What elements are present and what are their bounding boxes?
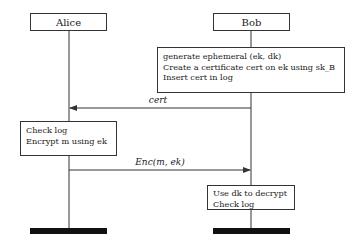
note-alice-action: Check log Encrypt m using ek bbox=[20, 121, 117, 156]
actor-bob-label: Bob bbox=[242, 17, 262, 28]
note-line: Encrypt m using ek bbox=[26, 136, 111, 147]
alice-terminator bbox=[30, 228, 107, 234]
note-line: Create a certificate cert on ek using sk… bbox=[163, 62, 339, 73]
note-line: Check log bbox=[26, 125, 111, 136]
actor-bob: Bob bbox=[213, 13, 290, 31]
note-bob-finish: Use dk to decrypt Check log bbox=[207, 185, 295, 210]
message-label-enc: Enc(m, ek) bbox=[135, 157, 184, 167]
note-line: Check log bbox=[213, 199, 289, 210]
note-bob-setup: generate ephemeral (ek, dk) Create a cer… bbox=[157, 47, 345, 93]
message-label-cert: cert bbox=[149, 95, 167, 105]
note-line: generate ephemeral (ek, dk) bbox=[163, 51, 339, 62]
note-line: Insert cert in log bbox=[163, 72, 339, 83]
note-line: Use dk to decrypt bbox=[213, 188, 289, 199]
bob-terminator bbox=[213, 228, 290, 234]
actor-alice-label: Alice bbox=[56, 17, 81, 28]
actor-alice: Alice bbox=[30, 13, 107, 31]
